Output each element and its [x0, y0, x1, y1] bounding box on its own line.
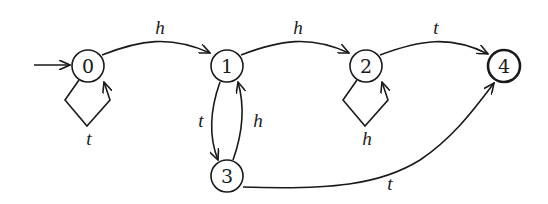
- edge-label-3-1: h: [253, 110, 263, 131]
- state-4-accepting: 4: [488, 50, 520, 82]
- state-label-4: 4: [498, 55, 510, 77]
- state-2: 2: [350, 50, 382, 82]
- edge-label-3-4: t: [387, 173, 393, 194]
- edge-label-2-2: h: [362, 128, 372, 149]
- edge-3-1-h: [233, 82, 242, 160]
- state-label-0: 0: [82, 55, 94, 77]
- edge-0-0-t: [65, 80, 110, 126]
- state-1: 1: [211, 50, 243, 82]
- edge-label-1-3: t: [198, 110, 204, 131]
- state-label-3: 3: [221, 165, 233, 187]
- state-3: 3: [211, 160, 243, 192]
- state-label-2: 2: [360, 55, 372, 77]
- automaton-diagram: t h h t h h t t 0 1 2 3 4: [0, 0, 548, 204]
- edge-1-2-h: [241, 41, 349, 55]
- state-label-1: 1: [221, 55, 233, 77]
- edge-0-1-h: [102, 41, 210, 55]
- edge-label-0-1: h: [155, 17, 165, 38]
- edge-1-3-t: [211, 82, 220, 160]
- state-0: 0: [72, 50, 104, 82]
- edge-2-2-h: [343, 80, 388, 126]
- edge-2-4-t: [380, 42, 488, 55]
- edge-label-0-0: t: [86, 128, 92, 149]
- edge-label-1-2: h: [293, 17, 303, 38]
- edge-label-2-4: t: [433, 17, 439, 38]
